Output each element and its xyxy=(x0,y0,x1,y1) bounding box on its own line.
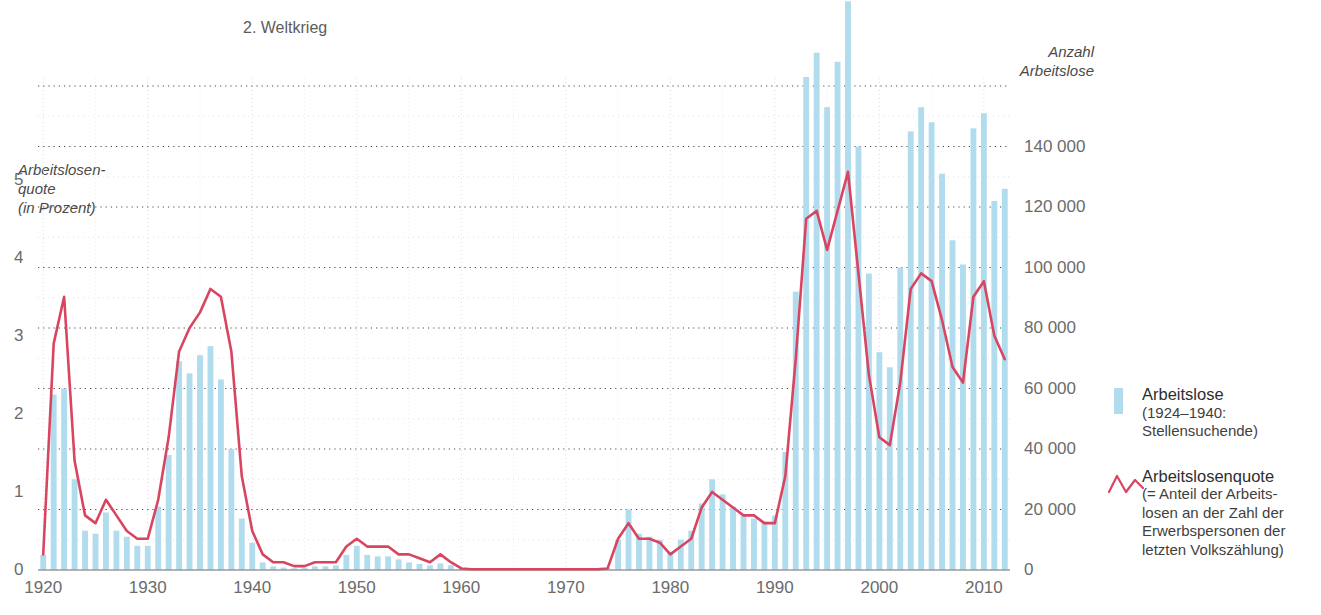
bar xyxy=(166,455,172,570)
y-axis-tick-left: 4 xyxy=(14,248,23,268)
bar xyxy=(228,449,234,570)
chart-page: 2. Weltkrieg Arbeitslosen- quote (in Pro… xyxy=(0,0,1321,615)
bar xyxy=(93,534,99,570)
bar xyxy=(835,62,841,570)
bar xyxy=(824,107,830,570)
bar xyxy=(814,53,820,570)
bar xyxy=(385,556,391,570)
bar xyxy=(845,1,851,570)
bar xyxy=(991,201,997,570)
bar xyxy=(364,555,370,570)
legend-bar-swatch xyxy=(1108,385,1142,414)
bar xyxy=(396,559,402,570)
bar xyxy=(981,113,987,570)
bar xyxy=(51,395,57,570)
legend-item-arbeitslose: Arbeitslose (1924–1940: Stellensuchende) xyxy=(1108,385,1318,441)
bar xyxy=(897,268,903,571)
y-axis-tick-right: 40 000 xyxy=(1024,439,1076,459)
bar xyxy=(354,546,360,570)
legend-item-arbeitslosenquote: Arbeitslosenquote (= Anteil der Arbeits-… xyxy=(1108,467,1318,560)
bar xyxy=(82,531,88,570)
x-axis-tick: 1920 xyxy=(24,578,62,598)
y-axis-tick-right: 20 000 xyxy=(1024,500,1076,520)
x-axis-tick: 1950 xyxy=(338,578,376,598)
bar xyxy=(406,562,412,570)
y-axis-tick-right: 80 000 xyxy=(1024,318,1076,338)
bar xyxy=(187,373,193,570)
bar xyxy=(113,531,119,570)
bar xyxy=(866,274,872,570)
x-axis-tick: 1930 xyxy=(129,578,167,598)
bar xyxy=(448,565,454,570)
y-axis-tick-left: 5 xyxy=(14,170,23,190)
bar xyxy=(260,562,266,570)
x-axis-tick: 1960 xyxy=(442,578,480,598)
bar xyxy=(61,389,67,571)
bar xyxy=(40,555,46,570)
y-axis-tick-right: 140 000 xyxy=(1024,137,1085,157)
bar xyxy=(730,506,736,570)
bar xyxy=(145,546,151,570)
x-axis-tick: 2000 xyxy=(860,578,898,598)
bar xyxy=(239,519,245,570)
bar xyxy=(417,564,423,570)
legend-line-title: Arbeitslosenquote xyxy=(1142,467,1285,486)
zigzag-line-icon xyxy=(1108,470,1144,498)
x-axis-tick: 1980 xyxy=(651,578,689,598)
x-axis-tick: 1970 xyxy=(547,578,585,598)
bar xyxy=(939,174,945,570)
bar xyxy=(741,516,747,570)
bar xyxy=(887,367,893,570)
bar xyxy=(134,546,140,570)
legend-line-sub: (= Anteil der Arbeits- losen an der Zahl… xyxy=(1142,485,1285,559)
legend-line-swatch xyxy=(1108,467,1142,498)
y-axis-tick-right: 120 000 xyxy=(1024,197,1085,217)
bar xyxy=(103,513,109,570)
bar xyxy=(176,361,182,570)
bar xyxy=(343,555,349,570)
y-axis-tick-right: 0 xyxy=(1024,560,1033,580)
bar xyxy=(218,379,224,570)
bar xyxy=(751,519,757,570)
chart-legend: Arbeitslose (1924–1940: Stellensuchende)… xyxy=(1108,385,1318,585)
legend-bars-title: Arbeitslose xyxy=(1142,385,1258,404)
y-axis-tick-left: 0 xyxy=(14,560,23,580)
bar xyxy=(970,128,976,570)
bar xyxy=(437,563,443,570)
bar xyxy=(950,240,956,570)
bar xyxy=(803,77,809,570)
bar xyxy=(1002,189,1008,570)
chart-canvas xyxy=(38,0,1010,615)
right-axis-title: Anzahl Arbeitslose xyxy=(1018,42,1094,80)
x-axis-tick: 2010 xyxy=(965,578,1003,598)
x-axis-tick: 1990 xyxy=(756,578,794,598)
y-axis-tick-left: 2 xyxy=(14,404,23,424)
bar xyxy=(929,122,935,570)
bar xyxy=(72,479,78,570)
bar xyxy=(124,537,130,570)
bar xyxy=(197,355,203,570)
y-axis-tick-left: 3 xyxy=(14,326,23,346)
y-axis-tick-right: 100 000 xyxy=(1024,258,1085,278)
bar xyxy=(720,494,726,570)
bar xyxy=(626,510,632,571)
bar xyxy=(908,131,914,570)
bar xyxy=(856,147,862,571)
bar xyxy=(918,107,924,570)
bar xyxy=(761,522,767,570)
bar xyxy=(375,556,381,570)
bar xyxy=(646,537,652,570)
bar xyxy=(960,264,966,570)
bar xyxy=(208,346,214,570)
bar xyxy=(249,543,255,570)
y-axis-tick-right: 60 000 xyxy=(1024,379,1076,399)
legend-bars-sub: (1924–1940: Stellensuchende) xyxy=(1142,404,1258,441)
plot-area xyxy=(38,0,1010,615)
x-axis-tick: 1940 xyxy=(233,578,271,598)
bar xyxy=(155,506,161,570)
bar xyxy=(876,352,882,570)
y-axis-tick-left: 1 xyxy=(14,482,23,502)
